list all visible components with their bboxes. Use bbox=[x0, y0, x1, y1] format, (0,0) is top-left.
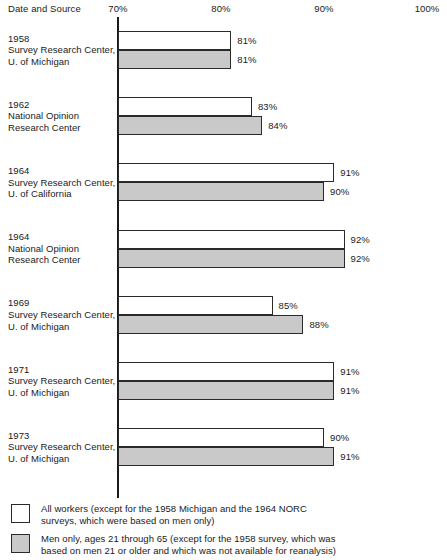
x-tick-label: 100% bbox=[415, 3, 440, 14]
bar-group-label-line: U. of Michigan bbox=[8, 453, 120, 465]
bar-group: 1962National OpinionResearch Center83%84… bbox=[0, 97, 447, 135]
bar-group-label-line: 1973 bbox=[8, 430, 120, 442]
bar-group: 1964Survey Research Center,U. of Califor… bbox=[0, 163, 447, 201]
bar-value-label: 91% bbox=[340, 163, 359, 182]
bar-all bbox=[118, 163, 334, 182]
bar-group: 1964National OpinionResearch Center92%92… bbox=[0, 230, 447, 268]
bar-group-label: 1971Survey Research Center,U. of Michiga… bbox=[8, 364, 120, 399]
legend-text-line: surveys, which were based on men only) bbox=[41, 515, 441, 527]
bar-group-label-line: 1964 bbox=[8, 231, 120, 243]
bar-value-label: 90% bbox=[330, 428, 349, 447]
legend-text-line: based on men 21 or older and which was n… bbox=[41, 545, 441, 557]
bar-men bbox=[118, 50, 231, 69]
bar-group-label-line: Survey Research Center, bbox=[8, 375, 120, 387]
bar-group-label-line: Research Center bbox=[8, 122, 120, 134]
bar-value-label: 88% bbox=[309, 315, 328, 334]
bar-value-label: 84% bbox=[268, 116, 287, 135]
bar-group: 1971Survey Research Center,U. of Michiga… bbox=[0, 362, 447, 400]
bar-group-label-line: National Opinion bbox=[8, 243, 120, 255]
bar-group-label-line: U. of California bbox=[8, 188, 120, 200]
bar-group-label: 1964Survey Research Center,U. of Califor… bbox=[8, 165, 120, 200]
bar-men bbox=[118, 315, 303, 334]
bar-value-label: 90% bbox=[330, 182, 349, 201]
bar-all bbox=[118, 428, 324, 447]
bar-group-label-line: Survey Research Center, bbox=[8, 177, 120, 189]
bar-group-label-line: U. of Michigan bbox=[8, 56, 120, 68]
bar-men bbox=[118, 116, 262, 135]
bar-value-label: 91% bbox=[340, 362, 359, 381]
bar-value-label: 91% bbox=[340, 447, 359, 466]
legend-swatch-all bbox=[11, 504, 30, 523]
bar-group: 1958Survey Research Center,U. of Michiga… bbox=[0, 31, 447, 69]
bar-value-label: 92% bbox=[351, 249, 370, 268]
bar-value-label: 85% bbox=[279, 296, 298, 315]
x-tick-label: 80% bbox=[211, 3, 230, 14]
bar-men bbox=[118, 381, 334, 400]
bar-all bbox=[118, 296, 273, 315]
bar-value-label: 83% bbox=[258, 97, 277, 116]
bar-group-label: 1964National OpinionResearch Center bbox=[8, 231, 120, 266]
bar-value-label: 91% bbox=[340, 381, 359, 400]
bar-men bbox=[118, 447, 334, 466]
x-tick-label: 90% bbox=[314, 3, 333, 14]
legend-text: Men only, ages 21 through 65 (except for… bbox=[41, 533, 441, 556]
bar-group-label-line: U. of Michigan bbox=[8, 387, 120, 399]
bar-group-label: 1958Survey Research Center,U. of Michiga… bbox=[8, 33, 120, 68]
bar-group-label-line: U. of Michigan bbox=[8, 321, 120, 333]
bar-group-label: 1962National OpinionResearch Center bbox=[8, 99, 120, 134]
legend-text-line: Men only, ages 21 through 65 (except for… bbox=[41, 533, 441, 545]
legend-swatch-men bbox=[11, 534, 30, 553]
bar-group-label: 1969Survey Research Center,U. of Michiga… bbox=[8, 297, 120, 332]
axis-title-date-and-source: Date and Source bbox=[8, 3, 81, 14]
bar-all bbox=[118, 230, 345, 249]
bar-group-label-line: Survey Research Center, bbox=[8, 441, 120, 453]
bar-group: 1973Survey Research Center,U. of Michiga… bbox=[0, 428, 447, 466]
bar-group-label-line: 1958 bbox=[8, 33, 120, 45]
x-tick-label: 70% bbox=[108, 3, 127, 14]
bar-group-label-line: 1962 bbox=[8, 99, 120, 111]
bar-group-label-line: Research Center bbox=[8, 254, 120, 266]
legend-row: Men only, ages 21 through 65 (except for… bbox=[0, 533, 447, 559]
bar-all bbox=[118, 362, 334, 381]
bar-group-label-line: Survey Research Center, bbox=[8, 44, 120, 56]
bar-all bbox=[118, 31, 231, 50]
bar-men bbox=[118, 182, 324, 201]
bar-value-label: 81% bbox=[237, 31, 256, 50]
bar-value-label: 92% bbox=[351, 230, 370, 249]
bar-all bbox=[118, 97, 252, 116]
bar-men bbox=[118, 249, 345, 268]
bar-group-label-line: 1971 bbox=[8, 364, 120, 376]
bar-value-label: 81% bbox=[237, 50, 256, 69]
bar-group-label-line: Survey Research Center, bbox=[8, 309, 120, 321]
bar-group-label: 1973Survey Research Center,U. of Michiga… bbox=[8, 430, 120, 465]
bar-group-label-line: 1964 bbox=[8, 165, 120, 177]
bar-group-label-line: National Opinion bbox=[8, 110, 120, 122]
legend-text: All workers (except for the 1958 Michiga… bbox=[41, 503, 441, 526]
legend-row: All workers (except for the 1958 Michiga… bbox=[0, 503, 447, 529]
bar-group-label-line: 1969 bbox=[8, 297, 120, 309]
bar-group: 1969Survey Research Center,U. of Michiga… bbox=[0, 296, 447, 334]
legend-text-line: All workers (except for the 1958 Michiga… bbox=[41, 503, 441, 515]
bar-chart: Date and Source 70%80%90%100% 1958Survey… bbox=[0, 0, 447, 560]
